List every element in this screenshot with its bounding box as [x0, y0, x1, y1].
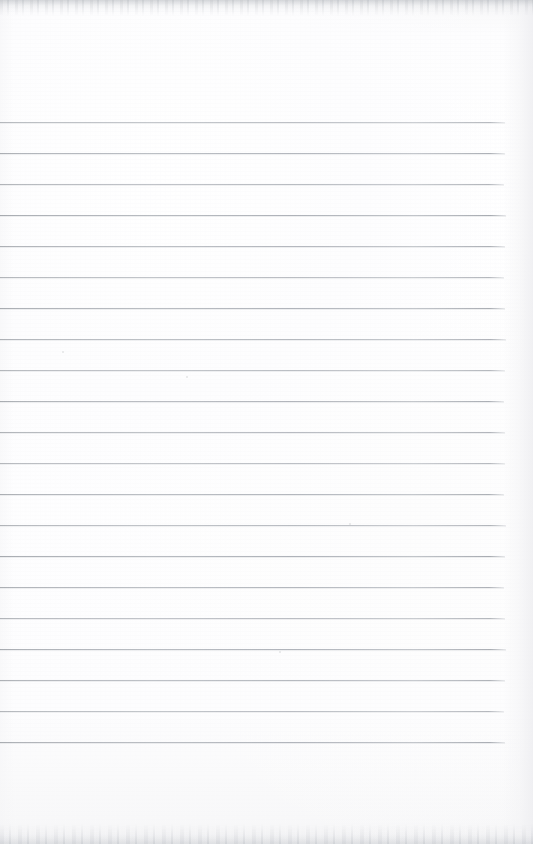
rule-line [0, 618, 505, 619]
rule-line [0, 308, 505, 309]
rule-line [0, 432, 505, 433]
rule-line [0, 556, 505, 557]
rule-line [0, 339, 506, 340]
rule-line [0, 711, 504, 712]
ruled-lines-group [0, 0, 533, 844]
scan-speck [279, 651, 281, 653]
rule-line [0, 370, 505, 371]
rule-line [0, 184, 504, 185]
rule-line [0, 525, 506, 526]
rule-line [0, 587, 504, 588]
scan-speck [349, 523, 351, 525]
rule-line [0, 122, 505, 123]
rule-line [0, 680, 505, 681]
rule-line [0, 153, 505, 154]
rule-line [0, 401, 504, 402]
rule-line [0, 215, 506, 216]
rule-line [0, 246, 505, 247]
rule-line [0, 277, 504, 278]
rule-line [0, 649, 506, 650]
scanned-page [0, 0, 533, 844]
scan-speck [186, 376, 188, 378]
rule-line [0, 742, 505, 743]
rule-line [0, 463, 505, 464]
scan-speck [62, 351, 64, 353]
rule-line [0, 494, 504, 495]
